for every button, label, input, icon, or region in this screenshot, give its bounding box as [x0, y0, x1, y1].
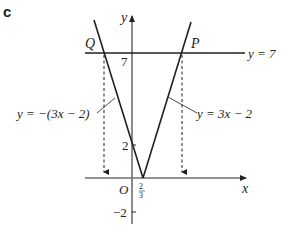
label-y-equals-7: y = 7 — [246, 46, 276, 61]
tick-label-two-thirds: 2 3 — [139, 182, 145, 200]
leader-left-label — [97, 98, 115, 113]
graph-canvas: y x O Q P 7 2 −2 2 3 y = 7 y = −(3x − 2)… — [0, 0, 292, 233]
label-left-branch: y = −(3x − 2) — [15, 106, 90, 121]
fraction-numerator: 2 — [139, 182, 143, 191]
x-axis-label: x — [241, 181, 249, 196]
origin-label: O — [119, 182, 129, 197]
y-axis-label: y — [119, 10, 128, 25]
tick-label-2: 2 — [122, 138, 129, 153]
point-Q-label: Q — [85, 36, 95, 51]
tick-label-7: 7 — [121, 54, 128, 69]
part-label: c — [3, 4, 11, 19]
label-right-branch: y = 3x − 2 — [195, 106, 253, 121]
point-P-label: P — [190, 36, 200, 51]
graph-figure: c y x O Q P — [0, 0, 292, 233]
fraction-denominator: 3 — [139, 191, 143, 200]
tick-label-neg2: −2 — [113, 205, 127, 220]
left-branch-line — [94, 20, 143, 178]
right-branch-line — [143, 22, 191, 178]
